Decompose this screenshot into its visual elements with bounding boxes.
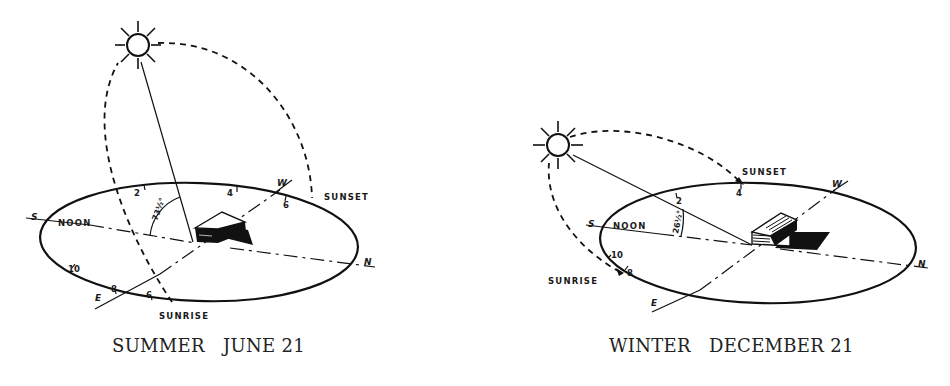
summer-south-label: S xyxy=(31,212,37,222)
summer-noon-label: NOON xyxy=(58,218,91,228)
winter-hour-2: 2 xyxy=(676,196,682,206)
winter-south-label: S xyxy=(588,219,594,229)
sun-icon xyxy=(533,121,583,169)
summer-hour-10: 10 xyxy=(68,264,80,274)
summer-noon-ray xyxy=(141,62,193,242)
winter-sunset-label: SUNSET xyxy=(742,167,787,177)
summer-north-axis xyxy=(230,248,375,267)
summer-diagram: S NOON N E W SUNSET SUNRISE 2 4 6 8 10 6… xyxy=(26,21,375,356)
summer-sun-path xyxy=(105,43,313,302)
winter-noon-line xyxy=(660,234,752,245)
summer-sunrise-label: SUNRISE xyxy=(159,311,209,321)
winter-north-axis xyxy=(780,249,928,268)
summer-west-label: W xyxy=(277,178,288,188)
winter-diagram: S NOON N E W SUNSET SUNRISE 2 4 8 10 26½… xyxy=(533,121,928,356)
winter-sun-path xyxy=(549,131,740,272)
sun-path-figure: S NOON N E W SUNSET SUNRISE 2 4 6 8 10 6… xyxy=(0,0,950,386)
winter-noon-ray xyxy=(573,155,752,245)
summer-noon-line xyxy=(90,225,195,243)
winter-noon-label: NOON xyxy=(613,221,646,231)
winter-east-label: E xyxy=(651,298,658,308)
summer-hour-2: 2 xyxy=(134,188,140,198)
summer-caption: SUMMER JUNE 21 xyxy=(112,335,305,356)
winter-west-label: W xyxy=(832,179,843,189)
house-icon xyxy=(195,212,253,245)
house-icon xyxy=(752,213,830,250)
summer-sunset-label: SUNSET xyxy=(324,192,369,202)
summer-hour-6-am: 6 xyxy=(146,290,152,300)
summer-hour-6-pm: 6 xyxy=(283,200,289,210)
summer-north-label: N xyxy=(364,257,372,267)
summer-hour-4: 4 xyxy=(227,188,233,198)
winter-hour-8: 8 xyxy=(627,268,633,278)
winter-north-label: N xyxy=(918,259,926,269)
winter-hour-4: 4 xyxy=(736,188,742,198)
winter-caption: WINTER DECEMBER 21 xyxy=(609,335,854,356)
summer-east-label: E xyxy=(95,293,102,303)
summer-hour-ticks xyxy=(72,185,286,300)
winter-east-axis xyxy=(652,290,700,312)
winter-hour-10: 10 xyxy=(611,250,623,260)
winter-sunrise-label: SUNRISE xyxy=(548,276,598,286)
summer-hour-8: 8 xyxy=(111,284,117,294)
summer-altitude-label: 73½° xyxy=(149,196,166,221)
sun-icon xyxy=(115,21,161,69)
